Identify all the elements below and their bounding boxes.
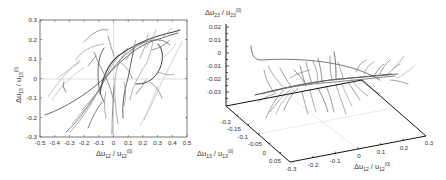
z-tick-label: -0.03: [207, 88, 222, 95]
y-tick-labels: 0.3 0.2 0.1 0 -0.1 -0.2 -0.3: [26, 16, 37, 140]
x-tick-label: 0.1: [124, 139, 133, 146]
x3d-tick-label: -0.2: [308, 161, 319, 168]
x3d-tick-label: 0.3: [425, 139, 434, 146]
y3d-tick-label: -0.2: [220, 118, 231, 125]
y-tick-label: 0.3: [28, 16, 37, 23]
x-tick-label: 0.2: [139, 139, 148, 146]
x-tick-label: 0.4: [168, 139, 177, 146]
right-y-edge: [362, 80, 426, 136]
y3d-tick-label: -0.15: [227, 125, 242, 132]
z-tick-label: 0.01: [209, 36, 222, 43]
figure: -0.5 -0.4 -0.3 -0.2 -0.1 0 0.1 0.2 0.3 0…: [0, 0, 446, 180]
y3d-tick-label: -0.1: [237, 133, 248, 140]
y-tick-label: -0.2: [26, 114, 37, 121]
right-plot-3d: 0.02 0.01 0 -0.01 -0.02 -0.03 Δu23 / u23…: [197, 8, 434, 172]
x-tick-label: -0.5: [35, 139, 46, 146]
floor-grid-line: [258, 108, 394, 134]
y3d-tick-label: 0: [263, 149, 267, 156]
x3d-tick-label: 0.2: [400, 144, 409, 151]
x3d-tick-label: -0.1: [330, 157, 341, 164]
x-tick-label: -0.3: [64, 139, 75, 146]
x3d-tick-label: 0.1: [377, 148, 386, 155]
y3d-tick-label: -0.05: [248, 140, 263, 147]
y3d-axis-label: Δu13 / u13(0): [197, 149, 234, 159]
z-tick-label: 0.02: [209, 23, 222, 30]
x-tick-label: -0.1: [93, 139, 104, 146]
x3d-tick-label: 0: [357, 152, 361, 159]
y-tick-label: 0: [34, 75, 38, 82]
z-tick-label: 0: [218, 49, 222, 56]
y-axis-label: Δu13 / u13(0): [14, 66, 24, 103]
y3d-tick-label: 0.05: [269, 157, 282, 164]
z-tick-label: -0.02: [207, 75, 222, 82]
y-tick-label: -0.1: [26, 94, 37, 101]
y-tick-label: 0.1: [28, 55, 37, 62]
x-tick-labels: -0.5 -0.4 -0.3 -0.2 -0.1 0 0.1 0.2 0.3 0…: [35, 139, 192, 146]
floor-grid-line: [290, 97, 358, 149]
x-tick-label: 0.3: [153, 139, 162, 146]
y3d-tick-labels: -0.2 -0.15 -0.1 -0.05 0 0.05: [220, 118, 281, 164]
x-tick-label: -0.4: [49, 139, 60, 146]
x-axis-label: Δu12 / u12(0): [96, 149, 133, 159]
trajectories-3d: [251, 46, 414, 118]
x3d-axis-label: Δu12 / u12(0): [354, 162, 391, 172]
z-tick-labels: 0.02 0.01 0 -0.01 -0.02 -0.03: [207, 23, 222, 95]
z-axis-label: Δu23 / u23(0): [205, 8, 242, 18]
x3d-tick-label: -0.3: [286, 165, 297, 172]
y-tick-label: -0.3: [26, 133, 37, 140]
x-tick-label: 0: [112, 139, 116, 146]
x-tick-label: 0.5: [183, 139, 192, 146]
y-tick-label: 0.2: [28, 36, 37, 43]
z-tick-label: -0.01: [207, 62, 222, 69]
left-plot: -0.5 -0.4 -0.3 -0.2 -0.1 0 0.1 0.2 0.3 0…: [14, 16, 192, 159]
x-tick-label: -0.2: [79, 139, 90, 146]
